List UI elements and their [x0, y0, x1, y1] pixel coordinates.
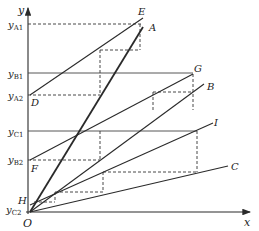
line-OC: [30, 166, 228, 212]
point-B-label: B: [206, 81, 214, 92]
point-I-label: I: [213, 117, 219, 128]
y-axis-label: y: [17, 4, 25, 17]
solid-reference-lines: [28, 73, 197, 131]
line-OA: [30, 27, 143, 212]
axes: [26, 8, 250, 214]
tick-yA1: yA1: [7, 19, 23, 32]
line-FG: [30, 74, 193, 160]
x-axis-label: x: [244, 216, 251, 229]
tick-yC1: yC1: [7, 126, 23, 139]
point-labels: E A D G B F I C H: [17, 6, 239, 206]
point-H-label: H: [17, 195, 27, 206]
main-lines: [30, 18, 228, 212]
point-F-label: F: [30, 163, 39, 174]
point-G-label: G: [194, 63, 202, 74]
tick-yB1: yB1: [7, 68, 23, 81]
y-tick-labels: yA1 yB1 yA2 yC1 yB2 yC2: [5, 19, 23, 217]
tick-yA2: yA2: [7, 90, 23, 103]
point-C-label: C: [231, 161, 239, 172]
point-A-label: A: [148, 22, 156, 33]
diagram-canvas: y x O yA1 yB1 yA2 yC1 yB2 yC2 E A D G B …: [0, 0, 259, 231]
line-HI: [30, 123, 213, 205]
line-DE: [30, 18, 143, 95]
point-D-label: D: [30, 97, 39, 108]
tick-yB2: yB2: [7, 154, 23, 167]
origin-label: O: [23, 217, 32, 230]
point-E-label: E: [137, 6, 146, 17]
